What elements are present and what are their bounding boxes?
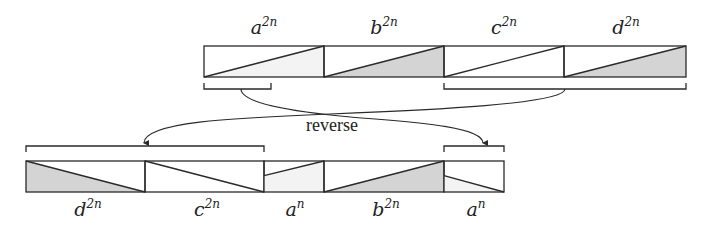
top-bracket-first-half-a xyxy=(204,83,271,89)
top-bracket-second-half-a-to-d xyxy=(444,83,686,89)
label-top-c: c2n xyxy=(491,18,517,37)
top-diagonal-2 xyxy=(444,46,564,77)
label-bottom-a-first: an xyxy=(285,200,304,219)
bottom-bracket-reversed-a xyxy=(444,146,504,152)
label-top-b: b2n xyxy=(370,18,398,37)
bottom-shade-2 xyxy=(264,161,324,192)
bottom-diagonal-1 xyxy=(145,161,264,192)
label-bottom-d: d2n xyxy=(74,200,102,219)
label-top-d: d2n xyxy=(612,18,640,37)
reverse-label: reverse xyxy=(306,116,358,134)
label-bottom-b: b2n xyxy=(372,200,400,219)
bottom-bracket-reversed-dc xyxy=(26,146,264,152)
label-bottom-c: c2n xyxy=(194,200,220,219)
reverse-diagram: a2n b2n c2n d2n reverse d2n c2n an b2n a… xyxy=(0,0,710,232)
label-bottom-a-second: an xyxy=(466,200,485,219)
label-top-a: a2n xyxy=(251,18,278,37)
